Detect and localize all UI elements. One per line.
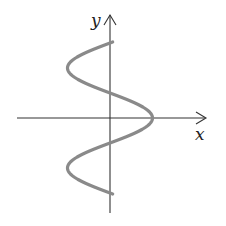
- y-axis-label: y: [91, 12, 101, 29]
- x-axis: [17, 112, 206, 124]
- x-axis-label: x: [195, 126, 205, 143]
- sinusoid-diagram: [0, 0, 226, 226]
